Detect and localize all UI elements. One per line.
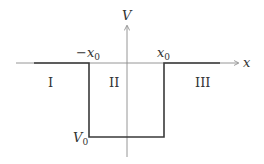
region-label-II: II xyxy=(109,75,119,90)
x-axis-label: x xyxy=(243,55,251,70)
region-label-III: III xyxy=(195,75,210,90)
region-label-I: I xyxy=(48,75,53,90)
depth-label: V0 xyxy=(73,130,88,147)
left-edge-label: −x0 xyxy=(76,45,100,62)
potential-well-diagram: V x −x0 x0 V0 I II III xyxy=(0,0,264,164)
right-edge-label: x0 xyxy=(157,45,170,62)
v-axis-label: V xyxy=(122,8,133,23)
